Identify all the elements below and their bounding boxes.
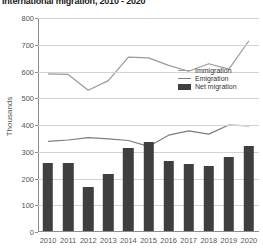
gridline xyxy=(38,98,259,99)
bar-2013 xyxy=(103,174,113,231)
y-tick-label: 700 xyxy=(21,40,34,49)
emigration-line-swatch-icon xyxy=(178,78,191,79)
bar-2018 xyxy=(204,166,214,231)
bar-2014 xyxy=(123,148,133,231)
y-tick-mark xyxy=(35,98,38,99)
legend-label-immigration: Immigration xyxy=(195,67,232,74)
x-tick-label: 2010 xyxy=(40,236,57,245)
gridline xyxy=(38,45,259,46)
y-tick-mark xyxy=(35,179,38,180)
gridline xyxy=(38,125,259,126)
page-title: International migration, 2010 - 2020 xyxy=(2,0,261,6)
y-tick-mark xyxy=(35,152,38,153)
y-tick-label: 300 xyxy=(21,147,34,156)
y-tick-label: 600 xyxy=(21,67,34,76)
x-tick-label: 2016 xyxy=(160,236,177,245)
bar-2017 xyxy=(183,164,193,231)
bar-2016 xyxy=(163,161,173,231)
chart-legend: Immigration Emigration Net migration xyxy=(178,67,237,90)
legend-label-net-migration: Net migration xyxy=(195,83,237,90)
y-tick-mark xyxy=(35,125,38,126)
x-tick-label: 2015 xyxy=(140,236,157,245)
y-tick-label: 200 xyxy=(21,174,34,183)
x-tick-label: 2020 xyxy=(241,236,258,245)
bar-2020 xyxy=(244,146,254,231)
legend-item-immigration: Immigration xyxy=(178,67,237,74)
legend-item-emigration: Emigration xyxy=(178,75,237,82)
y-tick-mark xyxy=(35,232,38,233)
x-tick-label: 2014 xyxy=(120,236,137,245)
y-tick-mark xyxy=(35,18,38,19)
y-axis-label: Thousands xyxy=(5,87,14,147)
y-tick-label: 0 xyxy=(30,228,34,237)
legend-item-net-migration: Net migration xyxy=(178,83,237,90)
x-tick-label: 2018 xyxy=(200,236,217,245)
immigration-line-swatch-icon xyxy=(178,70,191,71)
y-tick-mark xyxy=(35,72,38,73)
x-tick-label: 2017 xyxy=(180,236,197,245)
bar-2010 xyxy=(43,163,53,231)
legend-label-emigration: Emigration xyxy=(195,75,228,82)
x-tick-label: 2012 xyxy=(80,236,97,245)
y-tick-mark xyxy=(35,205,38,206)
y-tick-label: 500 xyxy=(21,94,34,103)
y-tick-label: 100 xyxy=(21,201,34,210)
x-tick-label: 2013 xyxy=(100,236,117,245)
x-axis-line xyxy=(38,231,259,232)
net-migration-bar-swatch-icon xyxy=(178,84,191,90)
migration-chart: International migration, 2010 - 2020 Tho… xyxy=(0,0,263,252)
y-tick-label: 400 xyxy=(21,121,34,130)
y-tick-label: 800 xyxy=(21,14,34,23)
bar-2012 xyxy=(83,187,93,231)
x-tick-label: 2019 xyxy=(221,236,238,245)
gridline xyxy=(38,18,259,19)
plot-area: 0100200300400500600700800201020112012201… xyxy=(38,18,259,232)
y-tick-mark xyxy=(35,45,38,46)
bar-2019 xyxy=(224,157,234,231)
bar-2015 xyxy=(143,142,153,231)
bar-2011 xyxy=(63,163,73,231)
x-tick-label: 2011 xyxy=(60,236,76,245)
